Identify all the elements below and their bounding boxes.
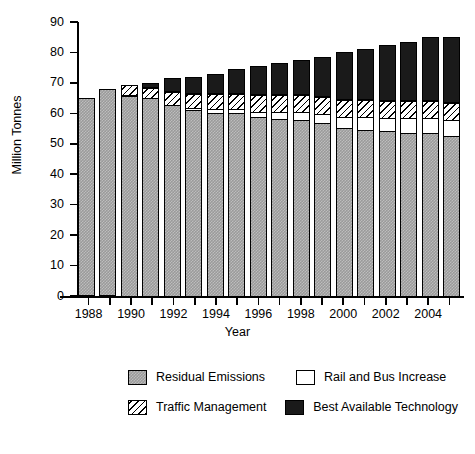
bar-1990[interactable]: [121, 85, 138, 296]
bar-segment-best-available-technology: [164, 78, 181, 92]
bar-segment-best-available-technology: [314, 57, 331, 97]
y-tick-40: [70, 173, 78, 175]
bar-2002[interactable]: [379, 45, 396, 296]
legend-row: Traffic Management Best Available Techno…: [128, 392, 458, 422]
y-tick-label-70: 70: [50, 76, 64, 89]
y-tick-30: [70, 204, 78, 206]
bar-segment-traffic-management: [379, 101, 396, 119]
x-tick-2001: [364, 298, 366, 305]
bar-segment-residual-emissions: [99, 89, 116, 296]
legend-label-traffic-management: Traffic Management: [156, 400, 266, 414]
x-tick-label-1990: 1990: [117, 308, 145, 321]
y-tick-70: [70, 82, 78, 84]
bar-segment-traffic-management: [336, 100, 353, 118]
x-tick-2000: [342, 298, 344, 305]
legend-entry-residual-emissions: Residual Emissions: [128, 370, 296, 385]
bar-segment-traffic-management: [185, 94, 202, 109]
legend-swatch-residual-emissions: [128, 370, 147, 385]
bar-1994[interactable]: [207, 74, 224, 296]
bar-segment-best-available-technology: [250, 66, 267, 95]
bar-segment-traffic-management: [121, 85, 138, 96]
y-tick-label-40: 40: [50, 168, 64, 181]
bar-segment-residual-emissions: [121, 96, 138, 297]
legend-entry-rail-and-bus-increase: Rail and Bus Increase: [296, 370, 446, 385]
bar-segment-rail-and-bus-increase: [400, 118, 417, 133]
y-tick-90: [70, 21, 78, 23]
bar-segment-residual-emissions: [207, 113, 224, 297]
x-tick-1993: [194, 298, 196, 305]
bar-2003[interactable]: [400, 42, 417, 296]
bar-segment-residual-emissions: [443, 136, 460, 297]
x-tick-1999: [321, 298, 323, 305]
bar-segment-best-available-technology: [422, 37, 439, 101]
bar-1996[interactable]: [250, 66, 267, 296]
bar-segment-traffic-management: [400, 101, 417, 119]
bar-2005[interactable]: [443, 37, 460, 296]
bar-segment-residual-emissions: [185, 110, 202, 297]
bar-segment-residual-emissions: [142, 98, 159, 297]
x-tick-1995: [236, 298, 238, 305]
legend-entry-best-available-technology: Best Available Technology: [285, 400, 458, 415]
bar-1992[interactable]: [164, 78, 181, 296]
x-tick-1997: [279, 298, 281, 305]
y-axis-label: Million Tonnes: [10, 80, 24, 190]
y-tick-10: [70, 265, 78, 267]
x-tick-2002: [385, 298, 387, 305]
y-tick-label-20: 20: [50, 229, 64, 242]
x-tick-label-2000: 2000: [329, 308, 357, 321]
bar-2000[interactable]: [336, 52, 353, 296]
bar-2001[interactable]: [357, 49, 374, 296]
bar-segment-best-available-technology: [271, 63, 288, 95]
x-tick-1989: [109, 298, 111, 305]
bar-segment-traffic-management: [164, 92, 181, 106]
stacked-bar-chart-figure: 0102030405060708090 19881990199219941996…: [0, 0, 475, 454]
x-tick-2003: [406, 298, 408, 305]
legend-swatch-rail-and-bus-increase: [296, 370, 315, 385]
bar-segment-residual-emissions: [293, 120, 310, 297]
bar-1991[interactable]: [142, 83, 159, 296]
y-tick-50: [70, 143, 78, 145]
x-tick-1998: [300, 298, 302, 305]
bar-1997[interactable]: [271, 63, 288, 296]
bar-segment-traffic-management: [207, 94, 224, 111]
legend-label-best-available-technology: Best Available Technology: [313, 400, 458, 414]
y-tick-label-50: 50: [50, 137, 64, 150]
bar-segment-traffic-management: [443, 103, 460, 121]
bar-segment-rail-and-bus-increase: [422, 118, 439, 133]
bar-1988[interactable]: [78, 98, 95, 296]
x-axis-line: [60, 296, 464, 298]
x-tick-2005: [449, 298, 451, 305]
bar-2004[interactable]: [422, 37, 439, 296]
bar-segment-best-available-technology: [336, 52, 353, 99]
bar-segment-best-available-technology: [185, 77, 202, 94]
bar-1993[interactable]: [185, 77, 202, 296]
bar-segment-traffic-management: [357, 100, 374, 118]
bar-1995[interactable]: [228, 69, 245, 296]
bar-segment-best-available-technology: [400, 42, 417, 101]
x-tick-label-1998: 1998: [287, 308, 315, 321]
bar-segment-residual-emissions: [78, 98, 95, 296]
bar-segment-best-available-technology: [228, 69, 245, 93]
legend-swatch-traffic-management: [128, 400, 147, 415]
bar-segment-rail-and-bus-increase: [443, 120, 460, 137]
y-tick-label-60: 60: [50, 107, 64, 120]
bar-segment-traffic-management: [271, 95, 288, 113]
y-tick-60: [70, 113, 78, 115]
y-tick-label-80: 80: [50, 46, 64, 59]
x-tick-1991: [151, 298, 153, 305]
legend-row: Residual Emissions Rail and Bus Increase: [128, 362, 458, 392]
bar-segment-residual-emissions: [228, 113, 245, 297]
y-tick-0: [70, 295, 78, 297]
bar-segment-residual-emissions: [314, 123, 331, 297]
bar-1999[interactable]: [314, 57, 331, 296]
x-tick-label-1994: 1994: [202, 308, 230, 321]
bar-segment-rail-and-bus-increase: [357, 117, 374, 131]
x-tick-label-2004: 2004: [414, 308, 442, 321]
y-tick-80: [70, 52, 78, 54]
bar-1989[interactable]: [99, 89, 116, 296]
bar-group: [78, 22, 460, 296]
bar-1998[interactable]: [293, 60, 310, 296]
y-tick-label-90: 90: [50, 16, 64, 29]
x-tick-1994: [215, 298, 217, 305]
x-tick-1988: [88, 298, 90, 305]
